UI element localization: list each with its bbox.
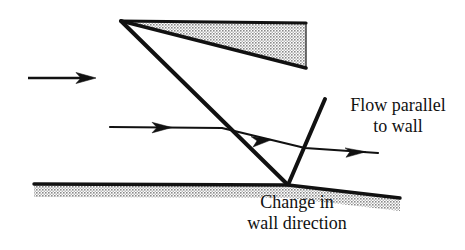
freestream-arrow [28, 73, 96, 84]
lower-wall-upstream-surface [34, 184, 288, 185]
flow-parallel-label-line2: to wall [342, 116, 454, 137]
flow-parallel-label-line1: Flow parallel [342, 95, 454, 116]
change-in-wall-label: Change in wall direction [232, 192, 362, 234]
reflected-shock-line [288, 99, 325, 185]
change-in-wall-label-line2: wall direction [232, 213, 362, 234]
flow-parallel-label: Flow parallel to wall [342, 95, 454, 137]
wedge-body [121, 21, 306, 68]
wedge-top-edge [121, 21, 306, 23]
streamline-arrowhead-3 [345, 148, 366, 157]
change-in-wall-label-line1: Change in [232, 192, 362, 213]
